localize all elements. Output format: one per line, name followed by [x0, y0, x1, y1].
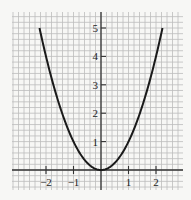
- x-tick-label: 1: [126, 176, 132, 188]
- y-tick-label: 2: [93, 107, 99, 119]
- grid-lines: [12, 12, 183, 190]
- x-tick-label: −1: [68, 176, 80, 188]
- y-tick-label: 3: [93, 79, 99, 91]
- y-tick-label: 4: [93, 50, 99, 62]
- y-tick-label: 1: [93, 136, 99, 148]
- parabola-plot: −2−11212345: [0, 0, 191, 200]
- axes: [12, 12, 183, 190]
- x-tick-label: 2: [153, 176, 159, 188]
- x-tick-label: −2: [40, 176, 52, 188]
- y-tick-label: 5: [93, 22, 99, 34]
- tick-labels: −2−11212345: [40, 22, 159, 188]
